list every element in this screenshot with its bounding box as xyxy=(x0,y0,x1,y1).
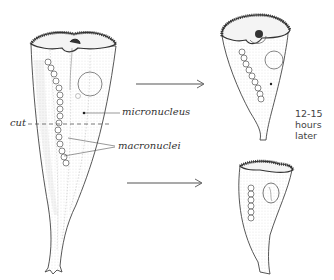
arrow-to-posterior xyxy=(127,179,202,187)
micronucleus-label: micronucleus xyxy=(122,106,190,117)
cut-label: cut xyxy=(10,117,26,128)
arrow-to-anterior xyxy=(136,80,204,88)
macronuclei-label: macronuclei xyxy=(118,140,181,151)
time-note-unit: hours xyxy=(295,119,323,130)
time-note: 12-15 hours later xyxy=(295,108,323,141)
original-stentor xyxy=(31,32,116,274)
anterior-regenerated-stentor xyxy=(222,15,290,140)
time-note-range: 12-15 xyxy=(295,108,323,119)
time-note-later: later xyxy=(295,130,323,141)
posterior-regenerated-stentor xyxy=(239,161,293,274)
